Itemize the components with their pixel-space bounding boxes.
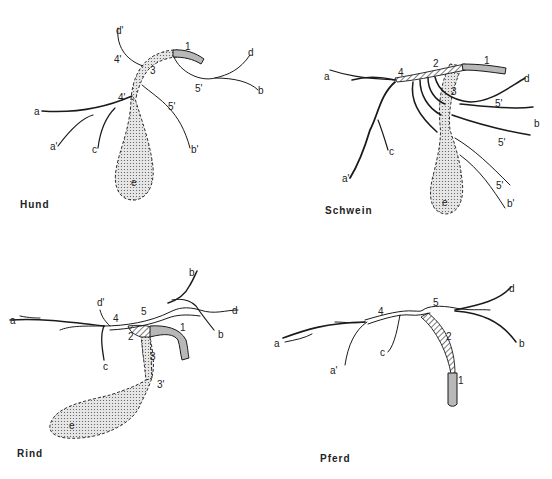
label-5-prime: 5'	[195, 83, 203, 94]
label-3: 3	[150, 351, 156, 362]
label-2: 2	[128, 331, 134, 342]
label-c: c	[389, 146, 394, 157]
label-4: 4	[398, 67, 404, 78]
label-b: b	[258, 85, 264, 96]
gallbladder	[50, 337, 154, 438]
label-d-prime: d'	[116, 25, 124, 36]
label-d: d	[232, 305, 238, 316]
label-5-prime: 5'	[168, 101, 176, 112]
panel-rind: 1 2 3 3' 4 5 a b b c d d' e Rind	[10, 267, 238, 459]
label-1: 1	[458, 375, 464, 386]
panel-schwein: 1 2 3 4 5' 5' 5' a a' b b' c d e Schwein	[324, 55, 540, 216]
label-a-prime: a'	[342, 173, 350, 184]
label-c: c	[380, 347, 385, 358]
label-a: a	[10, 315, 16, 326]
label-5-prime: 5'	[495, 98, 503, 109]
label-a: a	[274, 338, 280, 349]
label-b: b	[519, 338, 525, 349]
label-a: a	[324, 71, 330, 82]
panel-title: Rind	[17, 448, 43, 459]
label-a-prime: a'	[50, 141, 58, 152]
panel-pferd: 1 2 4 5 a a' b c d Pferd	[274, 283, 525, 464]
hepatic-duct	[421, 313, 455, 374]
label-d-prime: d'	[97, 297, 105, 308]
bile-duct	[448, 373, 457, 406]
label-1: 1	[180, 322, 186, 333]
label-a: a	[34, 106, 40, 117]
bile-duct-diagram: 1 3 4' 4' 5' 5' a a' b b' c d d' e Hund	[0, 0, 552, 479]
label-b: b	[534, 118, 540, 129]
label-4: 4	[378, 306, 384, 317]
panel-title: Schwein	[325, 205, 373, 216]
label-4: 4	[113, 313, 119, 324]
label-2: 2	[433, 58, 439, 69]
label-5: 5	[141, 306, 147, 317]
label-c: c	[103, 361, 108, 372]
label-d: d	[524, 73, 530, 84]
label-d: d	[248, 47, 254, 58]
label-b-prime: b'	[191, 144, 199, 155]
label-e: e	[69, 420, 75, 431]
panel-hund: 1 3 4' 4' 5' 5' a a' b b' c d d' e Hund	[20, 25, 264, 210]
label-b: b	[189, 267, 195, 278]
label-e: e	[442, 197, 448, 208]
label-b: b	[218, 329, 224, 340]
label-5-prime: 5'	[496, 180, 504, 191]
label-1: 1	[185, 41, 191, 52]
label-3: 3	[150, 65, 156, 76]
label-4-prime: 4'	[118, 92, 126, 103]
panel-title: Hund	[20, 199, 50, 210]
label-1: 1	[484, 55, 490, 66]
gallbladder	[431, 64, 463, 214]
label-5: 5	[433, 297, 439, 308]
label-c: c	[92, 144, 97, 155]
label-2: 2	[446, 331, 452, 342]
panel-title: Pferd	[320, 453, 351, 464]
label-5-prime: 5'	[498, 137, 506, 148]
label-a-prime: a'	[330, 365, 338, 376]
label-d: d	[509, 283, 515, 294]
label-4-prime: 4'	[114, 54, 122, 65]
label-3: 3	[451, 86, 457, 97]
label-3-prime: 3'	[157, 379, 165, 390]
label-b-prime: b'	[507, 198, 515, 209]
label-e: e	[131, 177, 137, 188]
